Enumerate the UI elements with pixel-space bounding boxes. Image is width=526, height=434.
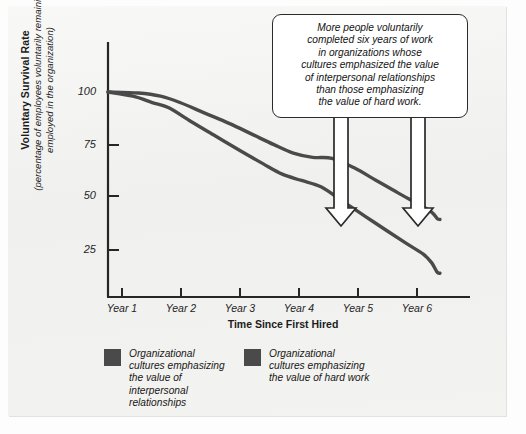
callout-line-3: in organizations whose — [280, 47, 460, 59]
legend-swatch-interpersonal-relationships — [104, 349, 121, 366]
callout-line-7: the value of hard work. — [280, 96, 460, 108]
legend-label-hard-work: Organizational cultures emphasizing the … — [269, 348, 369, 385]
callout-line-4: cultures emphasized the value — [280, 59, 460, 71]
legend-label-line: cultures emphasizing — [269, 360, 369, 372]
legend-label-line: Organizational — [129, 348, 225, 360]
legend-label-line: the value of hard work — [269, 372, 369, 384]
legend-label-line: cultures emphasizing — [129, 360, 225, 372]
chart-figure: Voluntary Survival Rate (percentage of e… — [0, 0, 526, 434]
callout-line-1: More people voluntarily — [280, 22, 460, 34]
legend-label-line: Organizational — [269, 348, 369, 360]
legend-label-line: interpersonal — [129, 385, 225, 397]
legend-item-interpersonal-relationships: Organizational cultures emphasizing the … — [104, 348, 225, 409]
legend-swatch-hard-work — [244, 349, 261, 366]
legend-label-interpersonal-relationships: Organizational cultures emphasizing the … — [129, 348, 225, 409]
series-line-hard-work — [108, 92, 440, 273]
legend-label-line: relationships — [129, 397, 225, 409]
legend-label-line: the value of — [129, 372, 225, 384]
legend-item-hard-work: Organizational cultures emphasizing the … — [244, 348, 369, 385]
callout-line-6: than those emphasizing — [280, 84, 460, 96]
callout-line-5: of interpersonal relationships — [280, 72, 460, 84]
callout-annotation: More people voluntarily completed six ye… — [272, 14, 468, 118]
callout-line-2: completed six years of work — [280, 34, 460, 46]
